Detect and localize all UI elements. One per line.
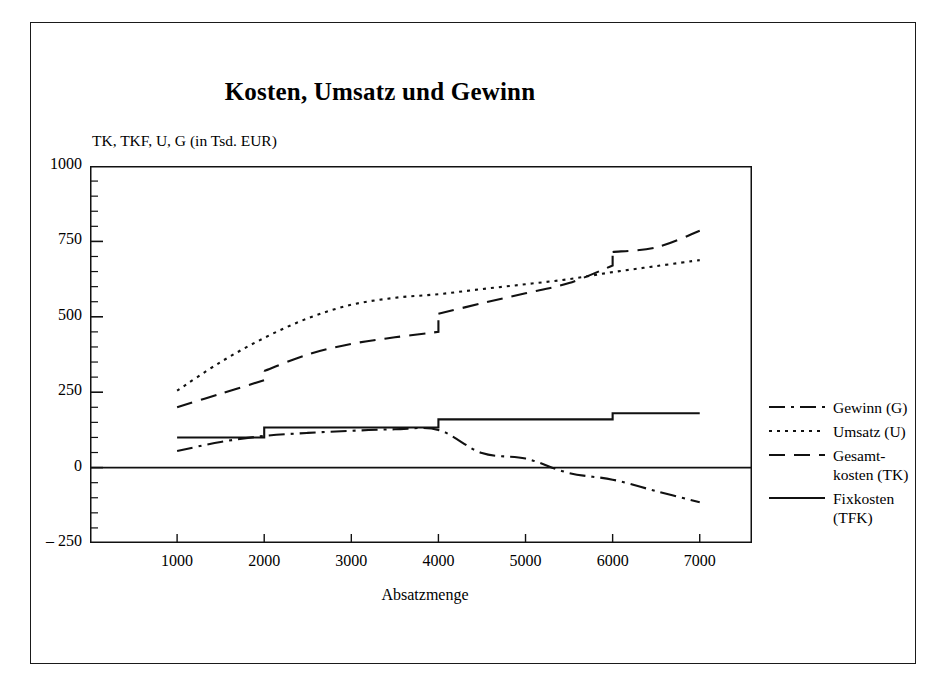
plot-frame (91, 167, 752, 543)
legend-label: Gewinn (G) (833, 398, 907, 417)
y-tick-label: 0 (20, 457, 82, 475)
y-tick-label: 500 (20, 306, 82, 324)
x-tick-label: 7000 (665, 552, 735, 570)
plot-svg (90, 166, 752, 543)
x-tick-label: 2000 (229, 552, 299, 570)
y-tick-label: – 250 (20, 532, 82, 550)
series-line-TFK (177, 413, 700, 437)
legend-swatch-TK-icon (768, 447, 826, 463)
plot-area (90, 166, 752, 543)
legend-label: Umsatz (U) (833, 422, 906, 441)
x-tick-label: 4000 (403, 552, 473, 570)
legend-item-TK[interactable]: Gesamt- kosten (TK) (768, 446, 940, 484)
x-axis-caption: Absatzmenge (260, 586, 590, 604)
data-series-group (177, 231, 700, 502)
y-tick-label: 250 (20, 381, 82, 399)
legend-label: Gesamt- kosten (TK) (833, 446, 908, 484)
y-tick-label: 1000 (20, 155, 82, 173)
axis-ticks (90, 166, 700, 543)
x-tick-label: 3000 (316, 552, 386, 570)
legend-swatch-U-icon (768, 423, 826, 439)
x-tick-label: 5000 (491, 552, 561, 570)
chart-legend: Gewinn (G)Umsatz (U)Gesamt- kosten (TK)F… (768, 398, 940, 532)
legend-swatch-G-icon (768, 399, 826, 415)
x-tick-label: 1000 (142, 552, 212, 570)
y-axis-caption: TK, TKF, U, G (in Tsd. EUR) (92, 132, 277, 150)
legend-label: Fixkosten (TFK) (833, 489, 894, 527)
legend-item-U[interactable]: Umsatz (U) (768, 422, 940, 441)
y-tick-label: 750 (20, 230, 82, 248)
series-line-TK (177, 231, 700, 407)
legend-swatch-TFK-icon (768, 490, 826, 506)
series-line-G (177, 428, 700, 502)
legend-item-TFK[interactable]: Fixkosten (TFK) (768, 489, 940, 527)
chart-title: Kosten, Umsatz und Gewinn (0, 78, 760, 106)
legend-item-G[interactable]: Gewinn (G) (768, 398, 940, 417)
figure-page: Kosten, Umsatz und Gewinn TK, TKF, U, G … (0, 0, 947, 695)
x-tick-label: 6000 (578, 552, 648, 570)
